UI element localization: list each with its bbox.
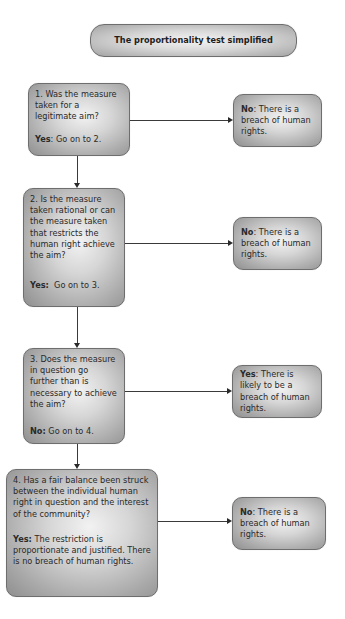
step-2-continue-label: Yes: [30, 280, 49, 290]
step-3-continue-text: Go on to 4. [46, 426, 94, 436]
step-1-outcome: No: There is a breach of human rights. [241, 104, 314, 138]
step-3-outcome-box: Yes: There is likely to be a breach of h… [232, 365, 322, 418]
step-1-outcome-box: No: There is a breach of human rights. [233, 94, 322, 147]
step-4-outcome-box: No: There is a breach of human rights. [232, 497, 326, 550]
step-4-outcome: No: There is a breach of human rights. [240, 507, 318, 541]
step-3-question-box: 3. Does the measure in question go furth… [23, 348, 125, 444]
step-3-question: 3. Does the measure in question go furth… [30, 354, 118, 410]
step-2-continue: Yes: Go on to 3. [30, 280, 118, 291]
step-4-continue: Yes: The restriction is proportionate an… [13, 534, 151, 568]
step-1-continue-text: : Go on to 2. [51, 134, 102, 144]
step-4-connector [158, 521, 227, 522]
step-3-continue: No: Go on to 4. [30, 426, 118, 437]
step-4-outcome-label: No [240, 507, 252, 517]
step-4-question: 4. Has a fair balance been struck betwee… [13, 475, 151, 520]
step-4-continue-label: Yes: [13, 534, 32, 544]
step-2-connector [125, 243, 228, 244]
step-2-outcome-label: No [241, 227, 253, 237]
flowchart-title: The proportionality test simplified [90, 24, 297, 57]
step-1-connector [130, 120, 228, 121]
step-1-outcome-label: No [241, 104, 253, 114]
step-3-outcome: Yes: There is likely to be a breach of h… [240, 369, 314, 414]
step-3-connector [125, 391, 227, 392]
title-text: The proportionality test simplified [114, 35, 273, 46]
step-1-question: 1. Was the measure taken for a legitimat… [35, 89, 123, 123]
step-1-question-box: 1. Was the measure taken for a legitimat… [28, 83, 130, 156]
step-2-continue-text: Go on to 3. [49, 280, 100, 290]
step-3-outcome-label: Yes [240, 369, 256, 379]
step-1-continue: Yes: Go on to 2. [35, 134, 123, 145]
step-2-question: 2. Is the measure taken rational or can … [30, 194, 118, 261]
step-2-outcome-box: No: There is a breach of human rights. [233, 217, 322, 270]
step-3-to-4-connector [77, 444, 78, 464]
step-2-question-box: 2. Is the measure taken rational or can … [23, 188, 125, 307]
step-3-continue-label: No: [30, 426, 46, 436]
step-2-outcome: No: There is a breach of human rights. [241, 227, 314, 261]
step-2-to-3-connector [77, 307, 78, 343]
step-4-question-box: 4. Has a fair balance been struck betwee… [6, 469, 158, 597]
step-1-continue-label: Yes [35, 134, 51, 144]
step-1-to-2-connector [77, 156, 78, 183]
step-4-continue-text: The restriction is proportionate and jus… [13, 534, 151, 566]
